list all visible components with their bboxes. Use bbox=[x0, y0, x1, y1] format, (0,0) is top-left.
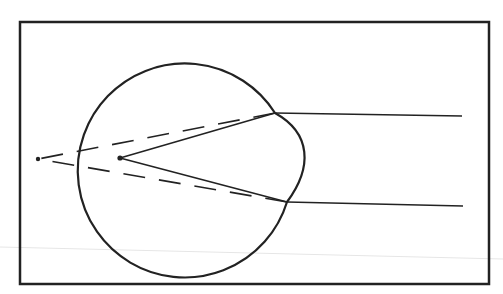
cornea-bulge bbox=[275, 113, 305, 202]
dashed-extension bbox=[38, 113, 275, 159]
incoming-parallel-rays bbox=[275, 113, 463, 206]
virtual-image-point bbox=[36, 157, 40, 161]
refracted-ray bbox=[120, 158, 287, 202]
incoming-ray bbox=[275, 113, 462, 116]
dashed-ray-extensions bbox=[38, 113, 287, 202]
incoming-ray bbox=[287, 202, 463, 206]
diagram-frame bbox=[20, 22, 489, 284]
focal-point bbox=[117, 155, 122, 160]
refracted-ray bbox=[120, 113, 275, 158]
dashed-extension bbox=[38, 159, 287, 202]
eye-optics-diagram bbox=[0, 0, 503, 294]
